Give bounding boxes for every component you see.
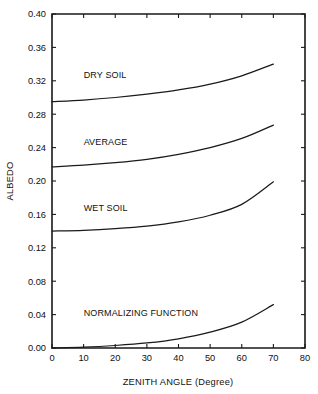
y-tick-label: 0.16 bbox=[28, 210, 46, 220]
y-tick-label: 0.32 bbox=[28, 76, 46, 86]
x-tick-label: 30 bbox=[142, 353, 152, 363]
y-tick-label: 0.24 bbox=[28, 143, 46, 153]
albedo-zenith-angle-chart: 01020304050607080 0.000.040.080.120.160.… bbox=[0, 0, 318, 394]
x-axis-title: ZENITH ANGLE (Degree) bbox=[123, 377, 234, 387]
y-tick-label: 0.36 bbox=[28, 43, 46, 53]
y-tick-label: 0.04 bbox=[28, 310, 46, 320]
x-tick-label: 0 bbox=[49, 353, 54, 363]
series-label: NORMALIZING FUNCTION bbox=[84, 308, 199, 318]
series-label: AVERAGE bbox=[84, 137, 128, 147]
series-label: WET SOIL bbox=[84, 203, 128, 213]
x-tick-label: 20 bbox=[110, 353, 120, 363]
x-tick-label: 50 bbox=[205, 353, 215, 363]
chart-background bbox=[0, 0, 318, 394]
chart-canvas: 01020304050607080 0.000.040.080.120.160.… bbox=[0, 0, 318, 394]
x-tick-label: 10 bbox=[78, 353, 88, 363]
x-tick-label: 80 bbox=[300, 353, 310, 363]
y-tick-label: 0.12 bbox=[28, 243, 46, 253]
x-axis-tick-labels: 01020304050607080 bbox=[49, 353, 310, 363]
y-tick-label: 0.20 bbox=[28, 176, 46, 186]
y-tick-label: 0.40 bbox=[28, 9, 46, 19]
x-tick-label: 40 bbox=[173, 353, 183, 363]
y-axis-title: ALBEDO bbox=[5, 162, 15, 201]
series-label: DRY SOIL bbox=[84, 70, 127, 80]
y-tick-label: 0.08 bbox=[28, 277, 46, 287]
y-tick-label: 0.00 bbox=[28, 343, 46, 353]
y-tick-label: 0.28 bbox=[28, 110, 46, 120]
x-tick-label: 60 bbox=[237, 353, 247, 363]
x-tick-label: 70 bbox=[268, 353, 278, 363]
